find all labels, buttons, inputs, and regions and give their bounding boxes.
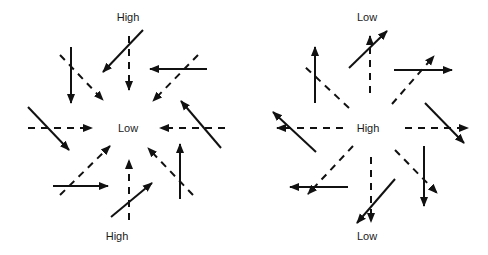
right-solid-arrow-icon [273,112,316,152]
right-top-label: Low [357,11,377,23]
right-solid-arrow-icon [425,103,464,143]
right-solid-arrow-icon [349,31,387,68]
right-solid-arrow-icon [357,179,395,223]
left-solid-arrow-icon [111,183,152,217]
left-center-label: Low [118,122,138,134]
right-dashed-arrow-icon [392,56,434,104]
right-dashed-arrow-icon [395,150,437,193]
arrow-canvas [0,0,488,255]
left-dashed-arrow-icon [60,55,103,100]
right-center-label: High [357,122,380,134]
pressure-circulation-figure: High Low High Low High Low [0,0,488,255]
left-dashed-arrow-icon [60,146,110,195]
left-bottom-label: High [106,230,129,242]
right-bottom-label: Low [357,230,377,242]
left-top-label: High [117,11,140,23]
left-dashed-arrow-icon [148,148,193,195]
right-dashed-arrow-icon [303,65,349,108]
left-solid-arrow-icon [181,101,221,148]
left-dashed-arrow-icon [153,55,198,101]
left-solid-arrow-icon [103,30,143,72]
